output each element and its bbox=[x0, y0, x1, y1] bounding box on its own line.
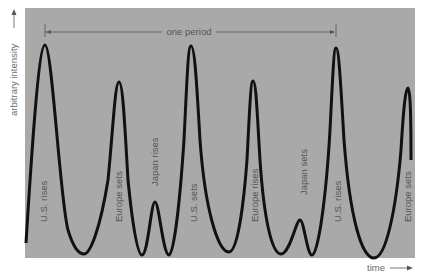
y-axis-label-group: arbitrary intensity bbox=[8, 9, 19, 116]
label-europe-sets-1: Europe sets bbox=[113, 171, 124, 222]
period-label: one period bbox=[167, 26, 212, 37]
label-us-rises-2: U.S. rises bbox=[332, 181, 343, 222]
x-axis-label-group: time bbox=[367, 262, 413, 273]
y-axis-arrowhead-icon bbox=[12, 9, 17, 15]
label-europe-sets-2: Europe sets bbox=[402, 171, 413, 222]
label-europe-rises: Europe rises bbox=[249, 168, 260, 222]
y-axis-label: arbitrary intensity bbox=[8, 43, 19, 116]
plot-background bbox=[25, 8, 415, 258]
x-axis-arrowhead-icon bbox=[407, 266, 413, 271]
label-us-rises-1: U.S. rises bbox=[38, 181, 49, 222]
label-japan-rises: Japan rises bbox=[149, 137, 160, 186]
x-axis-label: time bbox=[367, 262, 385, 273]
label-us-sets: U.S. sets bbox=[188, 183, 199, 222]
label-japan-sets: Japan sets bbox=[298, 149, 309, 195]
intensity-diagram: arbitrary intensity one period U.S. rise… bbox=[0, 0, 423, 276]
